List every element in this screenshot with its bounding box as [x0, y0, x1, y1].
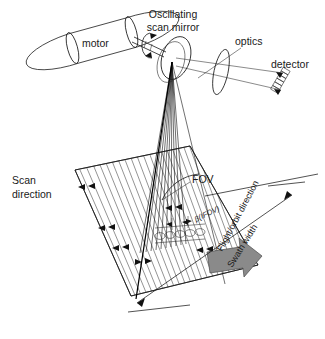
optics-label: optics — [235, 35, 262, 47]
scan-direction-label-line2: direction — [12, 188, 52, 200]
detector-label: detector — [271, 58, 309, 70]
flight-direction-axis — [205, 174, 318, 196]
oscillation-arrow — [142, 33, 157, 58]
motor-label: motor — [82, 37, 109, 49]
scanner-diagram-figure: FOV β(IFOV) Flight/orbit direction — [0, 0, 325, 339]
scan-direction-label-line1: Scan — [12, 174, 36, 186]
oscillating-scan-mirror-ellipse — [152, 33, 196, 86]
scan-mirror-label-line1: Oscillating — [149, 8, 198, 20]
fov-label: FOV — [192, 173, 214, 185]
optics-lens-ellipse — [209, 48, 232, 96]
optical-path-rays — [176, 48, 283, 90]
hatched-ground-swath — [20, 142, 264, 302]
swath-hatching — [20, 142, 264, 302]
scan-mirror-label-line2: scan mirror — [147, 21, 200, 33]
scanner-diagram-canvas: FOV β(IFOV) Flight/orbit direction — [0, 0, 325, 339]
